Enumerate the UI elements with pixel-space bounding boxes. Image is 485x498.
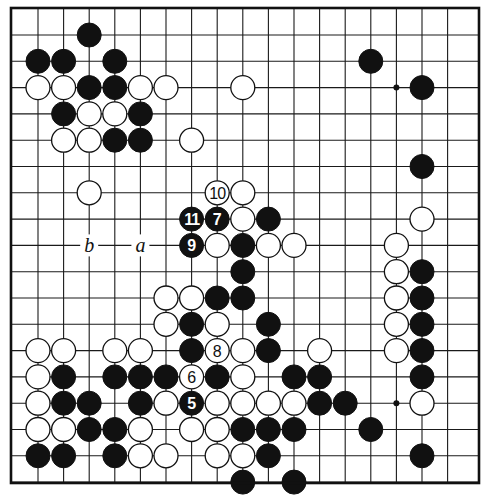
white-stone bbox=[231, 207, 255, 231]
stone-disc bbox=[154, 312, 178, 336]
stone-disc bbox=[103, 444, 127, 468]
black-stone bbox=[308, 365, 332, 389]
stone-disc bbox=[26, 391, 50, 415]
stone-disc bbox=[103, 49, 127, 73]
white-stone bbox=[154, 286, 178, 310]
stone-disc bbox=[103, 365, 127, 389]
stone-disc bbox=[180, 312, 204, 336]
move-number: 8 bbox=[213, 343, 222, 360]
stone-disc bbox=[410, 312, 434, 336]
stone-disc bbox=[282, 233, 306, 257]
black-stone bbox=[180, 339, 204, 363]
white-stone bbox=[26, 391, 50, 415]
black-stone bbox=[256, 207, 280, 231]
stone-disc bbox=[205, 286, 229, 310]
stone-disc bbox=[410, 155, 434, 179]
stone-disc bbox=[128, 365, 152, 389]
black-stone bbox=[26, 444, 50, 468]
black-stone bbox=[103, 128, 127, 152]
move-number: 5 bbox=[187, 395, 196, 412]
stone-disc bbox=[231, 260, 255, 284]
stone-disc bbox=[359, 418, 383, 442]
stone-disc bbox=[77, 391, 101, 415]
stone-disc bbox=[256, 339, 280, 363]
white-stone-move-8: 8 bbox=[205, 339, 229, 363]
black-stone bbox=[410, 286, 434, 310]
white-stone bbox=[180, 418, 204, 442]
black-stone bbox=[410, 444, 434, 468]
stone-disc bbox=[410, 76, 434, 100]
black-stone bbox=[26, 49, 50, 73]
black-stone bbox=[282, 365, 306, 389]
white-stone bbox=[128, 76, 152, 100]
stone-disc bbox=[180, 286, 204, 310]
stone-disc bbox=[256, 207, 280, 231]
white-stone bbox=[128, 339, 152, 363]
star-point bbox=[393, 400, 399, 406]
black-stone bbox=[231, 418, 255, 442]
stones: 101179865 bbox=[26, 23, 434, 494]
white-stone bbox=[154, 76, 178, 100]
stone-disc bbox=[205, 233, 229, 257]
stone-disc bbox=[205, 418, 229, 442]
black-stone bbox=[410, 339, 434, 363]
stone-disc bbox=[256, 391, 280, 415]
white-stone bbox=[384, 339, 408, 363]
white-stone bbox=[231, 339, 255, 363]
stone-disc bbox=[26, 365, 50, 389]
stone-disc bbox=[128, 418, 152, 442]
stone-disc bbox=[410, 207, 434, 231]
black-stone bbox=[128, 391, 152, 415]
white-stone bbox=[282, 391, 306, 415]
black-stone bbox=[77, 418, 101, 442]
white-stone bbox=[410, 207, 434, 231]
white-stone bbox=[256, 391, 280, 415]
stone-disc bbox=[52, 418, 76, 442]
stone-disc bbox=[410, 339, 434, 363]
stone-disc bbox=[128, 339, 152, 363]
white-stone bbox=[205, 418, 229, 442]
white-stone bbox=[308, 339, 332, 363]
white-stone bbox=[52, 128, 76, 152]
stone-disc bbox=[231, 391, 255, 415]
white-stone bbox=[231, 365, 255, 389]
stone-disc bbox=[410, 286, 434, 310]
stone-disc bbox=[26, 444, 50, 468]
white-stone bbox=[52, 418, 76, 442]
black-stone bbox=[205, 365, 229, 389]
stone-disc bbox=[52, 444, 76, 468]
black-stone bbox=[180, 312, 204, 336]
white-stone-move-10: 10 bbox=[205, 181, 229, 205]
stone-disc bbox=[103, 102, 127, 126]
stone-disc bbox=[384, 286, 408, 310]
stone-disc bbox=[77, 102, 101, 126]
black-stone bbox=[256, 444, 280, 468]
stone-disc bbox=[256, 312, 280, 336]
move-number: 7 bbox=[213, 211, 222, 228]
stone-disc bbox=[308, 339, 332, 363]
white-stone bbox=[77, 181, 101, 205]
white-stone bbox=[180, 128, 204, 152]
black-stone-move-11: 11 bbox=[180, 207, 204, 231]
stone-disc bbox=[205, 312, 229, 336]
stone-disc bbox=[410, 391, 434, 415]
white-stone bbox=[26, 365, 50, 389]
stone-disc bbox=[410, 444, 434, 468]
stone-disc bbox=[410, 365, 434, 389]
stone-disc bbox=[52, 339, 76, 363]
stone-disc bbox=[77, 128, 101, 152]
stone-disc bbox=[52, 49, 76, 73]
label-text: a bbox=[135, 234, 145, 256]
stone-disc bbox=[282, 418, 306, 442]
stone-disc bbox=[154, 391, 178, 415]
black-stone bbox=[52, 391, 76, 415]
point-label-a: a bbox=[131, 234, 149, 256]
stone-disc bbox=[308, 365, 332, 389]
stone-disc bbox=[384, 312, 408, 336]
stone-disc bbox=[231, 339, 255, 363]
go-board: ba 101179865 bbox=[0, 0, 485, 498]
white-stone bbox=[282, 233, 306, 257]
stone-disc bbox=[103, 418, 127, 442]
white-stone bbox=[128, 444, 152, 468]
black-stone bbox=[410, 260, 434, 284]
